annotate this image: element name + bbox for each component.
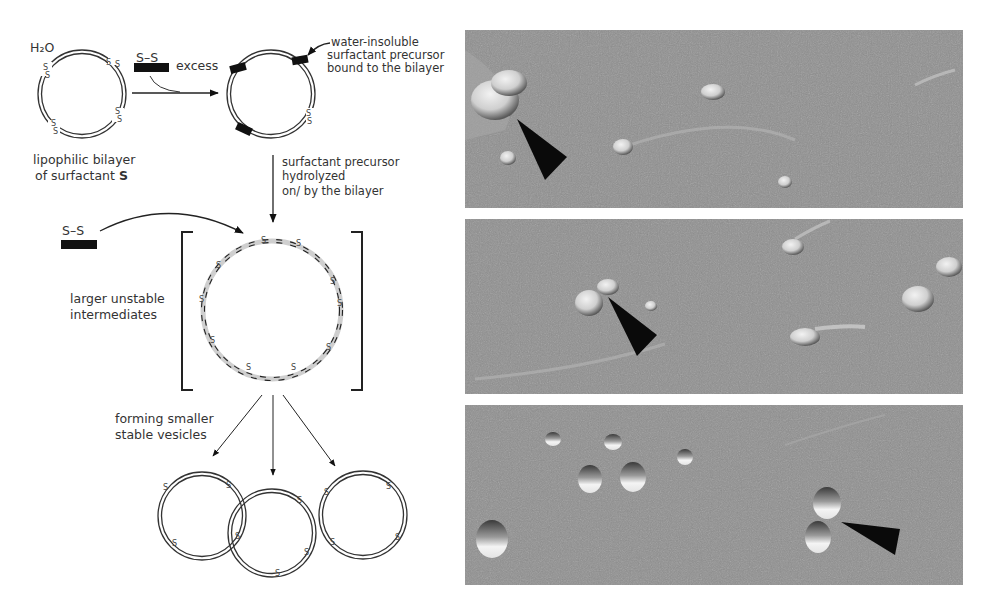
hydrolysis-step-label: hydrolyzed <box>282 169 345 183</box>
micrograph-panel-1 <box>465 30 963 208</box>
disulfide-label: S <box>216 261 221 270</box>
hydrolysis-step-label: on/ by the bilayer <box>282 184 384 198</box>
left-bracket <box>182 232 193 390</box>
disulfide-label: S <box>304 548 309 557</box>
disulfide-label: S <box>337 299 342 308</box>
disulfide-label: S <box>163 483 168 492</box>
vesicle-particle <box>491 70 527 96</box>
reagent-label: S–S <box>136 50 158 65</box>
disulfide-label: S <box>115 60 120 69</box>
small-stable-vesicle: S S S S <box>319 471 407 559</box>
small-stable-vesicle: S S S S <box>228 489 316 578</box>
product-arrow-icon <box>213 395 262 456</box>
disulfide-label: S <box>53 127 58 136</box>
disulfide-label: S <box>235 532 240 541</box>
disulfide-label: S <box>330 277 335 286</box>
large-unstable-vesicle: S S S S S S S S S S <box>199 236 343 381</box>
disulfide-label: S <box>296 239 301 248</box>
bound-precursor-note: bound to the bilayer <box>327 61 444 75</box>
micrograph-panel-3 <box>465 405 963 585</box>
precursor-block-icon <box>134 63 169 72</box>
micrograph-panel-2 <box>465 219 963 394</box>
small-stable-vesicle: S S S <box>158 472 246 560</box>
vesicle-particle <box>782 239 804 255</box>
vesicle-particle <box>645 301 657 311</box>
disulfide-label: S <box>226 481 231 490</box>
hydrolysis-step-label: surfactant precursor <box>282 155 400 169</box>
initial-vesicle: S S S S S S S S <box>38 50 126 138</box>
vesicle-particle <box>701 84 725 100</box>
disulfide-label: S <box>246 363 251 372</box>
disulfide-label: S <box>117 115 122 124</box>
reaction-scheme: H₂O S S S S S S S S lipophilic bilayer o… <box>0 0 460 609</box>
vesicle-particle <box>677 449 693 465</box>
right-bracket <box>351 232 362 390</box>
disulfide-label: S <box>291 363 296 372</box>
vesicle-particle <box>936 257 962 277</box>
products-label: forming smaller <box>115 411 214 426</box>
product-arrow-icon <box>283 395 335 466</box>
precursor-bound-vesicle: S S <box>227 50 316 138</box>
vesicle-particle <box>578 465 602 493</box>
vesicle-particle <box>476 520 508 558</box>
vesicle-particle <box>813 487 841 519</box>
products-label: stable vesicles <box>115 427 207 442</box>
vesicle-particle <box>545 432 561 446</box>
disulfide-label: S <box>172 539 177 548</box>
disulfide-label: S <box>307 117 312 126</box>
curved-arrow-icon <box>100 213 243 233</box>
intermediates-label: larger unstable <box>70 291 165 306</box>
vesicle-particle <box>902 286 934 312</box>
disulfide-label: S <box>326 343 331 352</box>
precursor-block-icon <box>61 240 97 249</box>
disulfide-label: S <box>45 71 50 80</box>
vesicle-particle <box>597 279 619 295</box>
disulfide-label: S <box>386 482 391 491</box>
disulfide-label: S <box>106 58 111 67</box>
vesicle-particle <box>575 290 603 316</box>
disulfide-label: S <box>324 488 329 497</box>
vesicle-particle <box>620 462 646 492</box>
initial-vesicle-caption: of surfactant S <box>35 168 128 183</box>
vesicle-particle <box>500 151 516 165</box>
disulfide-label: S <box>330 538 335 547</box>
vesicle-particle <box>604 434 622 450</box>
bound-precursor-note: surfactant precursor <box>327 48 445 62</box>
disulfide-label: S <box>261 236 266 245</box>
disulfide-label: S <box>210 336 215 345</box>
vesicle-particle <box>613 139 633 155</box>
disulfide-label: S <box>297 496 302 505</box>
initial-vesicle-caption: lipophilic bilayer <box>33 152 136 167</box>
disulfide-label: S <box>199 295 204 304</box>
bound-precursor-note: water-insoluble <box>331 35 419 49</box>
vesicle-particle <box>805 521 831 553</box>
vesicle-particle <box>790 328 820 346</box>
excess-label: excess <box>176 58 218 73</box>
intermediates-label: intermediates <box>70 307 157 322</box>
disulfide-label: S <box>395 533 400 542</box>
second-reagent-label: S–S <box>62 223 84 238</box>
disulfide-label: S <box>275 569 280 578</box>
solvent-label: H₂O <box>30 40 54 55</box>
vesicle-particle <box>778 176 792 188</box>
